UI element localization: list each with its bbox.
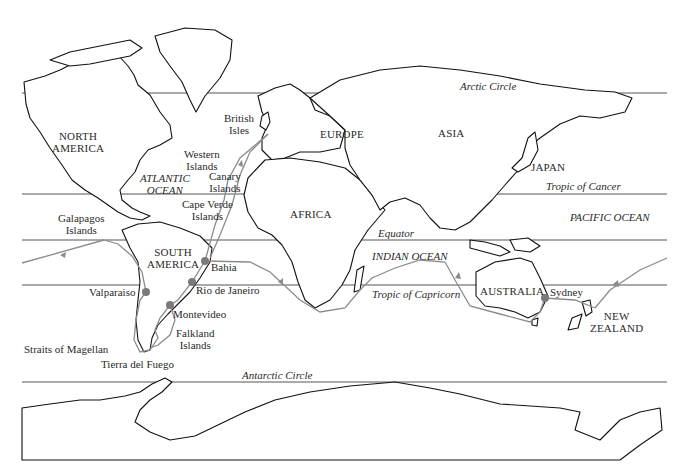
- arrow-icon: [612, 280, 619, 287]
- montevideo-label: Montevideo: [173, 308, 226, 320]
- cape-verde-line2: Islands: [182, 210, 233, 222]
- new-zealand: [568, 300, 592, 330]
- japan-label: JAPAN: [531, 161, 565, 173]
- equator-label: Equator: [378, 227, 414, 239]
- route-pacific-west: [22, 240, 104, 263]
- rio-de-janeiro-label: Rio de Janeiro: [196, 284, 260, 296]
- cape-verde-islands-label: Cape Verde Islands: [182, 198, 233, 222]
- straits-of-magellan-label: Straits of Magellan: [24, 343, 108, 355]
- atlantic-line2: OCEAN: [140, 184, 190, 196]
- asia-label: ASIA: [438, 127, 464, 139]
- south-america-line2: AMERICA: [147, 258, 199, 270]
- bahia-label: Bahia: [211, 261, 237, 273]
- western-line1: Western: [184, 148, 220, 160]
- british-line2: Isles: [224, 124, 254, 136]
- arctic-circle-label: Arctic Circle: [460, 80, 516, 92]
- tierra-del-fuego-label: Tierra del Fuego: [101, 358, 174, 370]
- australia-label: AUSTRALIA: [480, 285, 544, 297]
- atlantic-ocean-label: ATLANTIC OCEAN: [140, 172, 190, 196]
- north-america-line2: AMERICA: [52, 142, 104, 154]
- british-line1: British: [224, 112, 254, 124]
- arrow-icon: [278, 278, 283, 285]
- antarctic-circle-label: Antarctic Circle: [242, 369, 312, 381]
- falkland-line2: Islands: [176, 339, 215, 351]
- canary-line1: Canary: [209, 170, 241, 182]
- tropic-of-capricorn-label: Tropic of Capricorn: [372, 288, 460, 300]
- route-pacific-east: [595, 258, 667, 308]
- stop-rio-de-janeiro[interactable]: [188, 278, 196, 286]
- pacific-ocean-label: PACIFIC OCEAN: [570, 211, 650, 223]
- canary-line2: Islands: [209, 182, 241, 194]
- north-america-line1: NORTH: [52, 130, 104, 142]
- arrow-icon: [60, 252, 66, 258]
- new-zealand-line2: ZEALAND: [590, 322, 643, 334]
- stop-valparaiso[interactable]: [142, 288, 150, 296]
- stop-bahia[interactable]: [201, 257, 209, 265]
- western-islands-label: Western Islands: [184, 148, 220, 172]
- indonesia: [470, 240, 510, 256]
- falkland-line1: Falkland: [176, 327, 215, 339]
- british-isles-label: British Isles: [224, 112, 254, 136]
- antarctica: [22, 378, 662, 460]
- indian-ocean-label: INDIAN OCEAN: [372, 250, 447, 262]
- south-america-line1: SOUTH: [147, 246, 199, 258]
- galapagos-line1: Galapagos: [58, 212, 104, 224]
- galapagos-line2: Islands: [58, 224, 104, 236]
- new-zealand-line1: NEW: [590, 310, 643, 322]
- valparaiso-label: Valparaiso: [89, 286, 135, 298]
- cape-verde-line1: Cape Verde: [182, 198, 233, 210]
- canary-islands-label: Canary Islands: [209, 170, 241, 194]
- arctic-islands: [50, 40, 142, 66]
- europe-label: EUROPE: [320, 128, 364, 140]
- galapagos-islands-label: Galapagos Islands: [58, 212, 104, 236]
- sydney-label: Sydney: [550, 286, 583, 298]
- atlantic-line1: ATLANTIC: [140, 172, 190, 184]
- south-america-label: SOUTH AMERICA: [147, 246, 199, 270]
- greenland: [155, 28, 232, 112]
- tropic-of-cancer-label: Tropic of Cancer: [546, 180, 621, 192]
- africa-label: AFRICA: [290, 208, 332, 220]
- north-america-label: NORTH AMERICA: [52, 130, 104, 154]
- arrow-icon: [455, 272, 461, 279]
- falkland-islands-label: Falkland Islands: [176, 327, 215, 351]
- new-zealand-label: NEW ZEALAND: [590, 310, 643, 334]
